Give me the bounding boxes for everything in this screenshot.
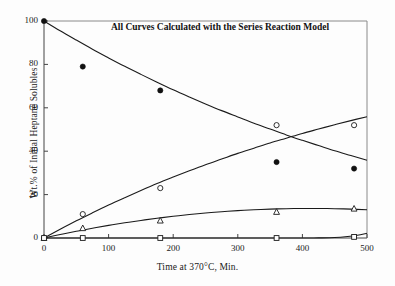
data-point-open-square xyxy=(274,236,279,241)
y-tick-label: 0 xyxy=(8,232,38,242)
x-tick-label: 0 xyxy=(24,243,64,253)
data-point-open-circle xyxy=(351,123,356,128)
y-tick-label: 80 xyxy=(8,58,38,68)
data-point-open-triangle xyxy=(351,206,357,212)
x-tick-label: 200 xyxy=(153,243,193,253)
data-point-filled-circle xyxy=(158,88,163,93)
data-point-open-square xyxy=(42,236,47,241)
x-tick-label: 500 xyxy=(347,243,387,253)
data-point-filled-circle xyxy=(274,159,279,164)
chart-title: All Curves Calculated with the Series Re… xyxy=(70,22,370,32)
data-markers xyxy=(41,18,357,240)
data-point-open-circle xyxy=(158,185,163,190)
data-point-open-triangle xyxy=(80,225,86,231)
curve-open-circle xyxy=(44,117,367,238)
data-point-open-circle xyxy=(274,123,279,128)
y-axis-title: Wt.% of Initial Heptane Solubles xyxy=(29,67,39,198)
data-point-open-square xyxy=(158,236,163,241)
y-tick-label: 40 xyxy=(8,145,38,155)
x-tick-label: 100 xyxy=(89,243,129,253)
data-point-open-circle xyxy=(80,212,85,217)
y-tick-label: 20 xyxy=(8,189,38,199)
curve-filled-circle xyxy=(44,21,367,160)
x-tick-label: 300 xyxy=(218,243,258,253)
x-axis-title: Time at 370°C, Min. xyxy=(0,262,395,272)
data-point-open-square xyxy=(80,236,85,241)
data-point-open-triangle xyxy=(274,209,280,215)
data-point-filled-circle xyxy=(41,18,46,23)
y-tick-label: 60 xyxy=(8,102,38,112)
curve-open-square xyxy=(44,233,367,238)
data-point-open-square xyxy=(352,235,357,240)
data-point-filled-circle xyxy=(351,166,356,171)
model-curves xyxy=(44,21,367,238)
x-tick-label: 400 xyxy=(282,243,322,253)
data-point-filled-circle xyxy=(80,64,85,69)
y-tick-label: 100 xyxy=(8,15,38,25)
chart-figure: All Curves Calculated with the Series Re… xyxy=(0,0,395,286)
